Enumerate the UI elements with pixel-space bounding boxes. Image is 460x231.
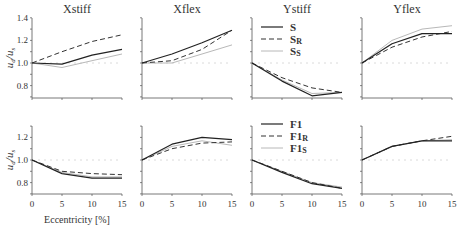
x-tick-label: 15 <box>448 199 458 209</box>
series-f1 <box>142 137 232 160</box>
series-f1 <box>252 160 342 188</box>
panel-title: Xstiff <box>63 2 91 16</box>
y-tick-label: 1.2 <box>17 132 28 142</box>
x-tick-label: 0 <box>250 199 255 209</box>
panel-title: Ystiff <box>283 2 311 16</box>
x-tick-label: 15 <box>118 199 128 209</box>
x-tick-label: 5 <box>60 199 65 209</box>
series-f1-r <box>142 142 232 160</box>
series-s-s <box>32 54 122 68</box>
series-f1-s <box>362 140 452 160</box>
x-tick-label: 10 <box>418 199 428 209</box>
panel-title: Yflex <box>393 2 420 16</box>
x-tick-label: 10 <box>308 199 318 209</box>
series-s-r <box>362 31 452 63</box>
y-tick-label: 1.0 <box>17 155 29 165</box>
series-s-r <box>32 35 122 63</box>
x-tick-label: 10 <box>198 199 208 209</box>
series-s-s <box>362 26 452 63</box>
x-tick-label: 10 <box>88 199 98 209</box>
y-tick-label: 1.4 <box>17 13 29 23</box>
panel-bottom-3: 051015 <box>360 126 457 209</box>
panel-title: Xflex <box>173 2 200 16</box>
figure: 0.81.01.21.4ud/usXstiffXflexYstiffYflex0… <box>0 0 460 231</box>
series-f1-s <box>142 141 232 160</box>
y-axis-label: ud/us <box>3 150 17 171</box>
y-tick-label: 1.2 <box>17 35 28 45</box>
y-axis-label: ud/us <box>3 48 17 69</box>
x-axis-label: Eccentricity [%] <box>44 214 110 225</box>
x-tick-label: 5 <box>280 199 285 209</box>
y-tick-label: 1.0 <box>17 58 29 68</box>
series-f1-r <box>252 160 342 188</box>
x-tick-label: 0 <box>140 199 145 209</box>
legend-label: S <box>290 21 296 33</box>
series-f1 <box>362 141 452 160</box>
legend-label: F1 <box>290 118 302 130</box>
legend-label: F1S <box>290 142 307 155</box>
legend-top: SSRSS <box>261 21 302 58</box>
panel-bottom-0: 0.81.01.2ud/us051015Eccentricity [%] <box>3 126 127 225</box>
series-f1 <box>32 160 122 178</box>
series-s-s <box>142 45 232 63</box>
legend-label: SS <box>290 45 301 58</box>
series-f1-r <box>32 160 122 175</box>
legend-bottom: F1F1RF1S <box>261 118 308 155</box>
x-tick-label: 0 <box>360 199 365 209</box>
series-f1-s <box>32 160 122 177</box>
y-tick-label: 0.8 <box>17 81 29 91</box>
x-tick-label: 5 <box>170 199 175 209</box>
y-tick-label: 0.8 <box>17 178 29 188</box>
panel-xflex: Xflex <box>140 2 232 100</box>
x-tick-label: 15 <box>338 199 348 209</box>
series-f1-s <box>252 160 342 187</box>
panel-bottom-1: 051015 <box>140 126 237 209</box>
series-s <box>362 34 452 63</box>
panel-yflex: Yflex <box>360 2 452 100</box>
x-tick-label: 5 <box>390 199 395 209</box>
chart-grid: 0.81.01.21.4ud/usXstiffXflexYstiffYflex0… <box>0 0 460 231</box>
x-tick-label: 0 <box>30 199 35 209</box>
panel-xstiff: 0.81.01.21.4ud/usXstiff <box>3 2 122 100</box>
x-tick-label: 15 <box>228 199 238 209</box>
